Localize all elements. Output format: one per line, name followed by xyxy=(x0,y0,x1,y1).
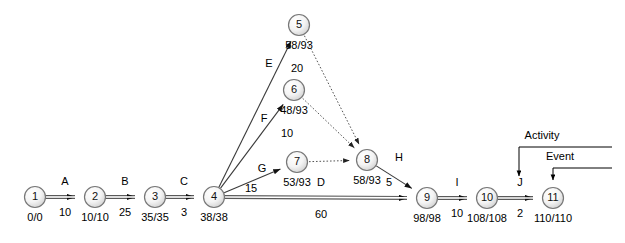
edge-name-g: G xyxy=(258,162,267,174)
edges-layer xyxy=(46,36,533,198)
node-times-2: 10/10 xyxy=(81,211,109,223)
edge-duration-f: 10 xyxy=(281,127,293,139)
node-2[interactable]: 2 xyxy=(85,187,106,208)
node-times-10: 108/108 xyxy=(467,212,507,224)
network-diagram-canvas: 1234567891011 A10B25C3E20F10G15D60H5I10J… xyxy=(0,0,625,243)
node-label-8: 8 xyxy=(364,153,370,165)
node-4[interactable]: 4 xyxy=(204,187,225,208)
node-times-5: 58/93 xyxy=(285,39,313,51)
edge-name-j: J xyxy=(517,176,523,188)
edge-duration-i: 10 xyxy=(451,207,463,219)
edge-h xyxy=(376,166,412,188)
node-11[interactable]: 11 xyxy=(543,188,564,209)
edge-name-e: E xyxy=(265,57,272,69)
node-times-11: 110/110 xyxy=(534,212,572,224)
edge-duration-b: 25 xyxy=(119,206,131,218)
node-times-7: 53/93 xyxy=(283,176,311,188)
node-3[interactable]: 3 xyxy=(145,187,166,208)
edge-duration-g: 15 xyxy=(245,182,257,194)
node-label-1: 1 xyxy=(32,190,38,202)
node-5[interactable]: 5 xyxy=(289,15,310,36)
edge-duration-a: 10 xyxy=(59,206,71,218)
edge-name-f: F xyxy=(261,112,268,124)
edge-name-i: I xyxy=(455,176,458,188)
node-times-1: 0/0 xyxy=(27,211,42,223)
annotations-layer: ActivityEvent xyxy=(519,129,612,180)
node-times-4: 38/38 xyxy=(200,211,228,223)
node-7[interactable]: 7 xyxy=(287,152,308,173)
node-label-10: 10 xyxy=(481,191,493,203)
node-8[interactable]: 8 xyxy=(357,150,378,171)
node-label-7: 7 xyxy=(294,155,300,167)
annotation-label-event: Event xyxy=(546,150,574,162)
edge-duration-e: 20 xyxy=(291,62,303,74)
node-label-5: 5 xyxy=(296,18,302,30)
edge-dummy-6-8 xyxy=(303,98,355,148)
edge-duration-c: 3 xyxy=(181,206,187,218)
edge-duration-j: 2 xyxy=(517,207,523,219)
node-label-4: 4 xyxy=(211,190,217,202)
edge-name-h: H xyxy=(395,151,403,163)
node-10[interactable]: 10 xyxy=(477,188,498,209)
annotation-label-activity: Activity xyxy=(525,129,560,141)
node-label-9: 9 xyxy=(424,191,430,203)
node-times-6: 48/93 xyxy=(280,104,308,116)
annotation-event: Event xyxy=(546,150,612,180)
node-times-8: 58/93 xyxy=(353,174,381,186)
edge-d xyxy=(225,197,407,198)
edge-dummy-7-8 xyxy=(309,160,350,161)
network-diagram-svg: 1234567891011 A10B25C3E20F10G15D60H5I10J… xyxy=(0,0,625,243)
node-times-9: 98/98 xyxy=(413,212,441,224)
edge-duration-h: 5 xyxy=(386,176,392,188)
edge-dummy-5-8 xyxy=(304,36,359,145)
node-label-3: 3 xyxy=(152,190,158,202)
node-9[interactable]: 9 xyxy=(417,188,438,209)
edge-name-d: D xyxy=(317,176,325,188)
node-label-2: 2 xyxy=(92,190,98,202)
node-6[interactable]: 6 xyxy=(284,80,305,101)
edge-duration-d: 60 xyxy=(315,208,327,220)
node-label-6: 6 xyxy=(291,83,297,95)
edge-f xyxy=(221,104,284,188)
edge-name-c: C xyxy=(180,175,188,187)
node-1[interactable]: 1 xyxy=(25,187,46,208)
node-times-3: 35/35 xyxy=(141,211,169,223)
node-label-11: 11 xyxy=(547,191,558,203)
edge-name-b: B xyxy=(121,175,128,187)
edge-name-a: A xyxy=(61,175,69,187)
